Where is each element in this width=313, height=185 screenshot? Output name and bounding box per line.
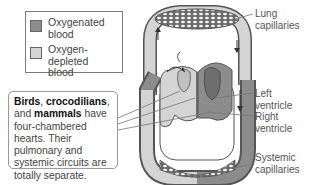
legend-label-oxygenated: Oxygenated blood <box>48 17 118 40</box>
callout-bold-mammals: mammals <box>34 108 82 119</box>
label-line: capillaries <box>255 20 299 31</box>
legend-label-line1: Oxygen-depleted <box>48 43 88 67</box>
callout-bold-birds: Birds <box>14 96 40 107</box>
label-systemic-capillaries: Systemic capillaries <box>255 152 299 175</box>
legend-item-depleted: Oxygen-depleted blood <box>30 44 118 79</box>
label-left-ventricle: Left ventricle <box>255 88 292 111</box>
label-line: Left <box>255 88 272 99</box>
legend-label-depleted: Oxygen-depleted blood <box>48 44 118 79</box>
callout-bold-crocodilians: crocodilians <box>46 96 107 107</box>
label-right-ventricle: Right ventricle <box>255 111 292 134</box>
depleted-swatch <box>30 47 42 59</box>
callout-box: Birds, crocodilians, and mammals have fo… <box>8 91 118 169</box>
label-lung-capillaries: Lung capillaries <box>255 8 299 31</box>
label-line: Systemic <box>255 152 296 163</box>
legend: Oxygenated blood Oxygen-depleted blood <box>25 11 123 73</box>
legend-item-oxygenated: Oxygenated blood <box>30 17 118 40</box>
callout-text: and <box>14 108 34 119</box>
legend-label-line2: blood <box>48 28 74 40</box>
oxygenated-swatch <box>30 20 42 32</box>
legend-label-line1: Oxygenated <box>48 16 105 28</box>
label-line: Right <box>255 111 278 122</box>
callout-sep: , <box>107 96 110 107</box>
label-line: Lung <box>255 8 277 19</box>
legend-label-line2: blood <box>48 66 74 78</box>
label-line: ventricle <box>255 100 292 111</box>
label-line: capillaries <box>255 164 299 175</box>
label-line: ventricle <box>255 123 292 134</box>
